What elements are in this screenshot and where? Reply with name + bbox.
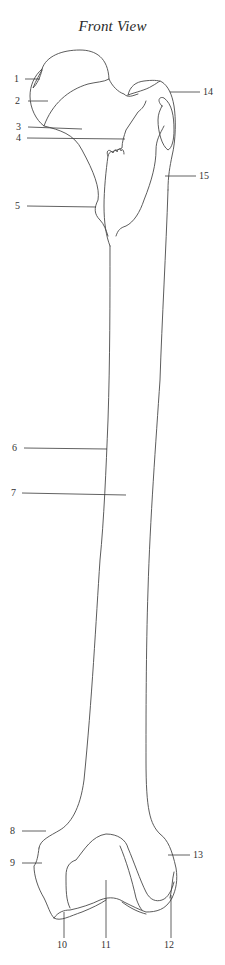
label-4: 4: [16, 133, 21, 143]
greater-trochanter-facet: [128, 81, 160, 95]
shaft-lateral-outline: [146, 190, 177, 898]
label-12: 12: [164, 940, 174, 950]
neck-medial-outline: [44, 126, 108, 236]
femur-front-view-drawing: [0, 0, 225, 965]
label-7: 7: [11, 488, 16, 498]
intertrochanteric-line: [104, 101, 146, 246]
label-13: 13: [193, 850, 203, 860]
neck-superior-outline: [109, 79, 138, 96]
label-14: 14: [203, 87, 213, 97]
leader-6: [24, 448, 107, 449]
label-10: 10: [57, 940, 67, 950]
leader-7: [22, 493, 126, 495]
label-11: 11: [101, 940, 111, 950]
femoral-head-outline: [30, 50, 109, 126]
patellar-surface-outline: [66, 834, 174, 908]
label-1: 1: [14, 74, 19, 84]
condyle-lower-rim: [54, 900, 106, 919]
label-9: 9: [10, 858, 15, 868]
gluteal-line: [116, 126, 164, 236]
label-2: 2: [15, 96, 20, 106]
label-8: 8: [10, 826, 15, 836]
medial-epicondyle-outline: [34, 848, 54, 918]
shaft-medial-outline: [39, 246, 110, 848]
lateral-condyle-rim: [122, 902, 146, 914]
label-15: 15: [199, 171, 209, 181]
condyle-articular-bottom: [54, 898, 172, 918]
leader-4: [27, 138, 125, 139]
greater-trochanter-top: [128, 80, 175, 190]
leader-5: [27, 206, 96, 207]
label-5: 5: [15, 201, 20, 211]
lesser-trochanter-bumps: [108, 149, 124, 156]
trochanteric-fossa: [158, 97, 174, 150]
label-3: 3: [16, 122, 21, 132]
label-6: 6: [12, 443, 17, 453]
